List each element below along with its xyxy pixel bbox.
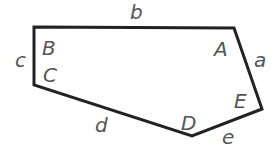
side-label-d: d xyxy=(95,113,108,137)
angle-label-C: C xyxy=(43,63,57,87)
side-label-b: b xyxy=(130,0,143,24)
side-label-e: e xyxy=(222,125,234,149)
angle-label-A: A xyxy=(212,37,228,61)
side-label-a: a xyxy=(254,48,266,72)
angle-label-D: D xyxy=(181,111,196,135)
angle-label-B: B xyxy=(42,36,56,60)
angle-label-E: E xyxy=(234,89,247,113)
polygon-diagram: b c a d e B C A E D xyxy=(0,0,279,153)
pentagon-shape xyxy=(34,27,262,136)
side-label-c: c xyxy=(15,48,26,72)
